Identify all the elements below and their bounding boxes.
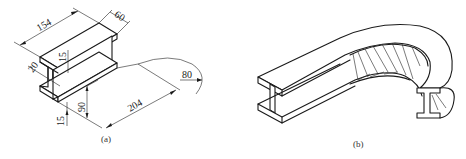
- bottom-flange-front-edge: [282, 73, 422, 117]
- caption-a: (a): [101, 134, 111, 144]
- end-section: [417, 88, 454, 118]
- diagram-canvas: · · · · · · 154: [0, 0, 466, 159]
- figure-b-drawing: [0, 0, 466, 159]
- bent-i-beam: [258, 25, 454, 124]
- web-front: [270, 84, 275, 113]
- caption-b: (b): [353, 139, 364, 149]
- bottom-flange-lower-edge: [282, 86, 355, 123]
